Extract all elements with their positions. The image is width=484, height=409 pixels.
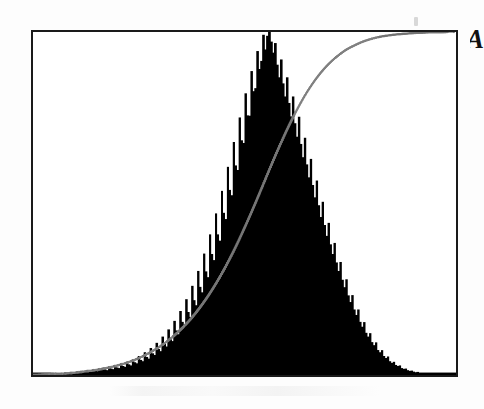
edge-glyph-text: A	[470, 27, 484, 54]
histogram-cumulative-plot	[33, 32, 456, 375]
plot-frame	[31, 30, 458, 377]
edge-glyph: A	[470, 27, 484, 57]
figure-root: A	[0, 0, 484, 409]
scan-artifact-top	[414, 17, 418, 26]
scan-artifact-bottom	[110, 386, 380, 396]
